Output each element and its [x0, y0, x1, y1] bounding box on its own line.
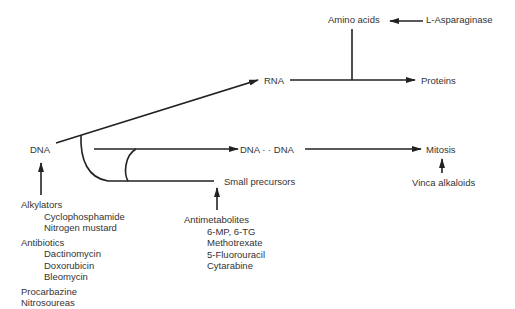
label-rna: RNA [264, 75, 284, 86]
group-title-antimetabolites: Antimetabolites [184, 214, 265, 226]
drug-bleomycin: Bleomycin [21, 271, 125, 283]
label-dna: DNA [30, 144, 50, 155]
antimetabolite-list: Antimetabolites 6-MP, 6-TG Methotrexate … [184, 214, 265, 272]
drug-5-fluorouracil: 5-Fluorouracil [184, 249, 265, 261]
label-asparaginase: L-Asparaginase [426, 14, 493, 25]
dna-branch-curve [81, 135, 214, 181]
label-amino-acids: Amino acids [328, 14, 380, 25]
label-proteins: Proteins [421, 75, 456, 86]
drug-cytarabine: Cytarabine [184, 260, 265, 272]
drug-doxorubicin: Doxorubicin [21, 260, 125, 272]
label-vinca-alkaloids: Vinca alkaloids [412, 177, 475, 188]
group-title-alkylators: Alkylators [21, 199, 125, 211]
drug-methotrexate: Methotrexate [184, 237, 265, 249]
drug-6mp-6tg: 6-MP, 6-TG [184, 226, 265, 238]
drug-procarbazine: Procarbazine [21, 286, 125, 298]
precursor-bracket [126, 149, 136, 181]
dna-to-rna-arrow [56, 80, 258, 143]
label-small-precursors: Small precursors [224, 176, 295, 187]
drug-dactinomycin: Dactinomycin [21, 248, 125, 260]
label-dna-dna: DNA · · DNA [240, 144, 294, 155]
dna-inhibitor-list: Alkylators Cyclophosphamide Nitrogen mus… [21, 199, 125, 309]
drug-nitrosoureas: Nitrosoureas [21, 297, 125, 309]
drug-nitrogen-mustard: Nitrogen mustard [21, 222, 125, 234]
group-title-antibiotics: Antibiotics [21, 237, 125, 249]
label-mitosis: Mitosis [426, 144, 456, 155]
drug-cyclophosphamide: Cyclophosphamide [21, 211, 125, 223]
